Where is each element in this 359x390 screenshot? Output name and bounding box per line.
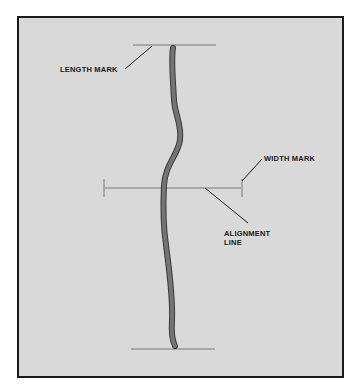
alignment-line-label-1: ALIGNMENT <box>224 229 270 238</box>
measurement-diagram <box>0 0 359 390</box>
length-mark-label: LENGTH MARK <box>60 65 118 74</box>
length-mark-leader <box>125 46 152 69</box>
width-mark-label: WIDTH MARK <box>264 154 315 163</box>
alignment-line-label-2: LINE <box>224 238 242 247</box>
width-mark-leader <box>242 159 262 181</box>
